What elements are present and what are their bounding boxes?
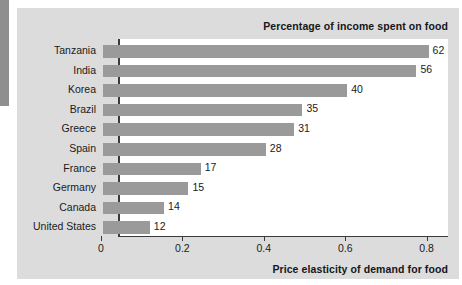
category-label: Tanzania — [54, 44, 96, 56]
x-axis-tick-label: 0.8 — [419, 242, 434, 254]
category-label: Brazil — [70, 103, 96, 115]
x-axis-tick — [101, 236, 102, 241]
bar-value-label: 40 — [351, 83, 363, 95]
figure-panel: Percentage of income spent on food Price… — [17, 8, 459, 279]
bar-value-label: 12 — [154, 220, 166, 232]
bar — [103, 182, 188, 195]
category-label: India — [73, 64, 96, 76]
bar-value-label: 17 — [205, 161, 217, 173]
bar-value-label: 28 — [270, 142, 282, 154]
x-axis-tick-label: 0 — [98, 242, 104, 254]
bar — [103, 45, 429, 58]
category-label: France — [63, 162, 96, 174]
bar — [103, 104, 302, 117]
page-edge-artifact — [0, 0, 9, 106]
x-axis-tick — [264, 236, 265, 241]
category-label: Germany — [53, 181, 96, 193]
bar-value-label: 14 — [168, 200, 180, 212]
bar — [103, 143, 266, 156]
x-axis-line — [118, 236, 448, 237]
x-axis-tick — [345, 236, 346, 241]
category-label: United States — [33, 220, 96, 232]
category-label: Spain — [69, 142, 96, 154]
bar-value-label: 56 — [420, 63, 432, 75]
x-axis-tick-label: 0.4 — [256, 242, 271, 254]
category-label: Canada — [59, 201, 96, 213]
bar — [103, 221, 150, 234]
bar — [103, 65, 416, 78]
x-axis-tick-label: 0.2 — [175, 242, 190, 254]
bar — [103, 163, 201, 176]
x-axis-title: Price elasticity of demand for food — [272, 263, 448, 275]
x-axis-tick — [427, 236, 428, 241]
category-label: Greece — [62, 122, 96, 134]
category-label: Korea — [68, 83, 96, 95]
bar-value-label: 31 — [298, 122, 310, 134]
x-axis-tick — [182, 236, 183, 241]
chart-title: Percentage of income spent on food — [263, 20, 448, 32]
bar — [103, 123, 294, 136]
chart-screenshot: Percentage of income spent on food Price… — [0, 0, 462, 285]
bar-value-label: 35 — [306, 102, 318, 114]
bar-value-label: 62 — [433, 44, 445, 56]
x-axis-tick-label: 0.6 — [338, 242, 353, 254]
bar-value-label: 15 — [192, 181, 204, 193]
bar — [103, 84, 347, 97]
bar — [103, 202, 164, 215]
